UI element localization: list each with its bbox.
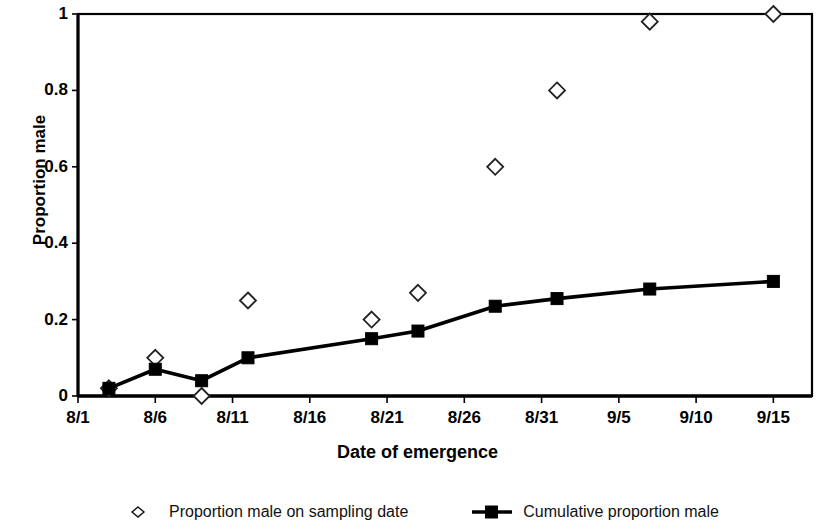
chart-container: Proportion male 00.20.40.60.81 8/18/68/1…: [0, 0, 835, 531]
data-point-square: [767, 275, 779, 287]
data-point-square: [242, 352, 254, 364]
legend-label-sampling-date: Proportion male on sampling date: [169, 504, 408, 520]
legend-item-sampling-date: Proportion male on sampling date: [116, 503, 408, 521]
chart-legend: Proportion male on sampling date Cumulat…: [0, 497, 835, 527]
data-point-square: [366, 333, 378, 345]
open-diamond-icon: [116, 503, 160, 521]
legend-label-cumulative: Cumulative proportion male: [523, 504, 719, 520]
data-point-square: [103, 382, 115, 394]
data-point-square: [196, 375, 208, 387]
legend-item-cumulative: Cumulative proportion male: [470, 503, 719, 521]
plot-frame: [78, 14, 812, 396]
data-point-square: [644, 283, 656, 295]
x-axis-title: Date of emergence: [0, 442, 835, 463]
data-point-square: [489, 300, 501, 312]
data-point-square: [149, 363, 161, 375]
data-point-square: [551, 293, 563, 305]
data-point-square: [412, 325, 424, 337]
filled-square-line-icon: [470, 503, 514, 521]
